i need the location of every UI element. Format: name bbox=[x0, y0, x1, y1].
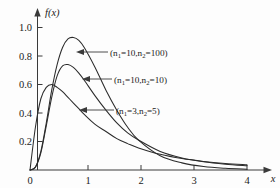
x-tick-label-3: 3 bbox=[191, 175, 196, 186]
x-axis: 0 1 2 3 4 x bbox=[27, 165, 275, 186]
y-tick-label-0.8: 0.8 bbox=[19, 51, 32, 62]
annotation-n1-10-n2-10: (n1=10,n2=10) bbox=[82, 75, 167, 86]
y-tick-label-0.4: 0.4 bbox=[19, 108, 33, 119]
leader-arrow-icon-1 bbox=[76, 49, 84, 55]
x-tick-label-2: 2 bbox=[138, 175, 143, 186]
curve-n1-3-n2-5 bbox=[30, 85, 247, 171]
y-tick-label-0.2: 0.2 bbox=[19, 136, 32, 147]
annotation-label-1: (n1=10,n2=100) bbox=[110, 48, 168, 59]
x-axis-label: x bbox=[270, 173, 276, 184]
leader-arrow-icon-2 bbox=[82, 76, 90, 82]
annotation-label-2: (n1=10,n2=10) bbox=[114, 75, 167, 86]
y-tick-label-1.0: 1.0 bbox=[19, 22, 32, 33]
x-tick-label-0: 0 bbox=[27, 175, 32, 186]
y-axis-label: f(x) bbox=[45, 7, 60, 19]
chart-figure: 1.0 0.8 0.6 0.4 0.2 f(x) 0 1 2 3 4 x bbox=[0, 0, 280, 188]
x-tick-label-4: 4 bbox=[244, 175, 250, 186]
f-distribution-plot: 1.0 0.8 0.6 0.4 0.2 f(x) 0 1 2 3 4 x bbox=[0, 0, 280, 188]
annotation-label-3: (n1=3,n2=5) bbox=[116, 106, 160, 117]
y-tick-label-0.6: 0.6 bbox=[19, 79, 32, 90]
x-tick-label-1: 1 bbox=[85, 175, 90, 186]
leader-arrow-icon-3 bbox=[79, 107, 87, 113]
annotation-n1-3-n2-5: (n1=3,n2=5) bbox=[79, 106, 160, 117]
y-axis-arrow-icon bbox=[34, 8, 40, 17]
